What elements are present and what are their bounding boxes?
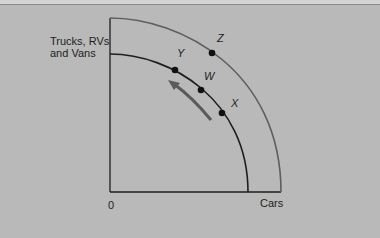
point-y bbox=[172, 67, 179, 74]
point-z bbox=[209, 50, 216, 57]
point-x-label: X bbox=[231, 97, 238, 109]
outer-ppf-curve bbox=[110, 18, 281, 192]
origin-label: 0 bbox=[108, 199, 114, 212]
inner-ppf-curve bbox=[110, 54, 248, 192]
x-axis-label: Cars bbox=[260, 197, 283, 210]
point-w bbox=[198, 87, 205, 94]
point-x bbox=[219, 110, 226, 117]
point-w-label: W bbox=[204, 70, 214, 82]
point-z-label: Z bbox=[217, 32, 224, 44]
y-axis-label-line2: and Vans bbox=[50, 47, 96, 60]
point-y-label: Y bbox=[177, 47, 184, 59]
movement-arrow bbox=[174, 84, 211, 120]
